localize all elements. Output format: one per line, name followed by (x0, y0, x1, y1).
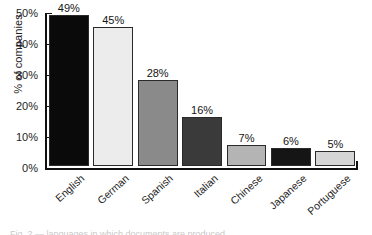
bar-value-label: 6% (283, 135, 299, 147)
bar-value-label: 45% (102, 14, 124, 26)
y-tick-label: 20% (16, 100, 38, 112)
plot-area: 0%10%20%30%40%50% 49%45%28%16%7%6%5% (45, 13, 358, 168)
bar-slot: 49% (47, 11, 91, 166)
x-tick-label-spanish: Spanish (139, 172, 175, 206)
x-tick-label-chinese: Chinese (228, 172, 265, 207)
bar-slot: 45% (91, 11, 135, 166)
bar-slot: 7% (224, 11, 268, 166)
x-tick-label-japanese: Japanese (267, 172, 309, 211)
bar-value-label: 7% (239, 132, 255, 144)
bar-slot: 6% (269, 11, 313, 166)
bar-english: 49% (49, 15, 89, 167)
x-tick-label-german: German (95, 172, 131, 206)
x-axis-line (45, 168, 358, 170)
bar-slot: 5% (313, 11, 357, 166)
y-tick-label: 40% (16, 38, 38, 50)
y-tick-label: 0% (22, 162, 38, 174)
y-tick-label: 30% (16, 69, 38, 81)
x-tick-label-italian: Italian (191, 172, 220, 200)
bar-slot: 28% (135, 11, 179, 166)
bar-spanish: 28% (138, 80, 178, 167)
bar-german: 45% (93, 27, 133, 167)
bar-chinese: 7% (227, 145, 267, 167)
bar-value-label: 16% (191, 104, 213, 116)
bar-value-label: 49% (58, 2, 80, 14)
bar-slot: 16% (180, 11, 224, 166)
bar-portuguese: 5% (315, 151, 355, 167)
x-tick-label-portuguese: Portuguese (305, 172, 353, 217)
bar-japanese: 6% (271, 148, 311, 167)
y-tick-label: 50% (16, 7, 38, 19)
x-tick-label-english: English (53, 172, 87, 204)
figure-caption: Fig. 2 — languages in which documents ar… (10, 228, 340, 235)
y-tick-label: 10% (16, 131, 38, 143)
bar-series: 49%45%28%16%7%6%5% (47, 11, 358, 166)
bar-italian: 16% (182, 117, 222, 167)
x-axis-category-labels: EnglishGermanSpanishItalianChineseJapane… (47, 172, 358, 224)
y-tick-mark (47, 168, 52, 169)
bar-value-label: 5% (327, 138, 343, 150)
bar-chart: % of companies 0%10%20%30%40%50% 49%45%2… (0, 0, 372, 235)
bar-value-label: 28% (147, 67, 169, 79)
